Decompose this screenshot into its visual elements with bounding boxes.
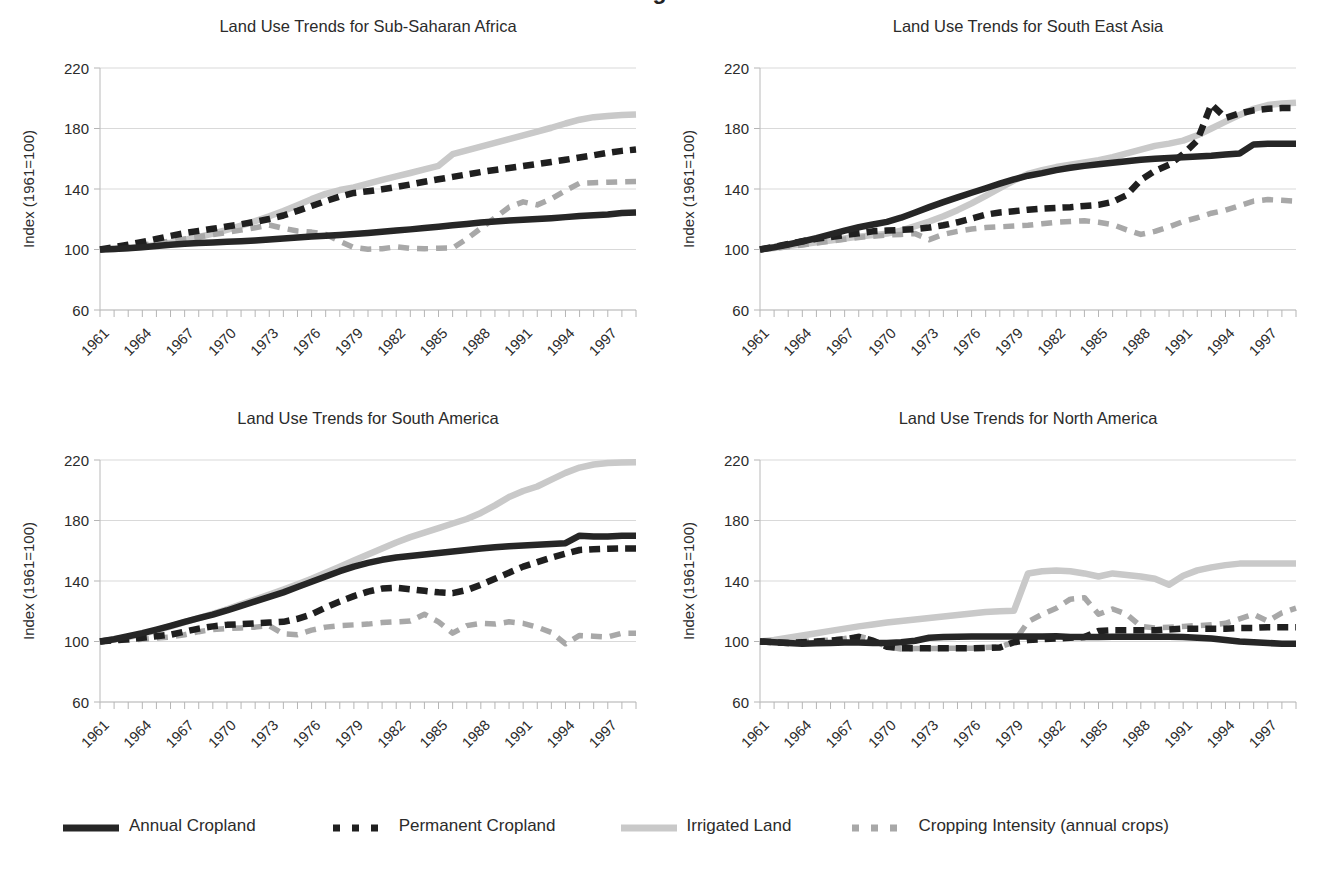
legend-swatch-glyph [620,822,678,834]
x-tick-label: 1973 [907,325,941,359]
chart-panel-sub-saharan-africa: Land Use Trends for Sub-Saharan AfricaIn… [0,0,660,392]
y-tick-label: 100 [724,633,749,650]
chart-svg: Land Use Trends for North AmericaIndex (… [660,392,1319,784]
x-tick-label: 1985 [417,717,451,751]
y-tick-label: 60 [72,302,89,319]
y-tick-label: 180 [64,120,89,137]
x-tick-label: 1970 [865,325,899,359]
y-tick-label: 60 [732,302,749,319]
x-tick-label: 1973 [247,717,281,751]
x-tick-label: 1994 [1203,717,1237,751]
y-axis-label: Index (1961=100) [680,130,697,248]
x-tick-label: 1997 [586,717,620,751]
y-tick-label: 220 [724,452,749,469]
x-tick-label: 1961 [78,325,112,359]
legend-label-permanent-cropland: Permanent Cropland [399,816,556,836]
x-tick-label: 1976 [290,325,324,359]
legend-item-annual-cropland: Annual Cropland [62,816,256,836]
x-tick-label: 1982 [1034,325,1068,359]
x-tick-label: 1991 [501,717,535,751]
x-tick-label: 1964 [120,717,154,751]
x-tick-label: 1970 [205,325,239,359]
chart-title: Land Use Trends for North America [899,409,1158,427]
x-tick-label: 1970 [205,717,239,751]
chart-panel-south-america: Land Use Trends for South AmericaIndex (… [0,392,660,790]
y-axis-label: Index (1961=100) [680,522,697,640]
x-tick-label: 1967 [163,717,197,751]
chart-panel-north-america: Land Use Trends for North AmericaIndex (… [660,392,1319,790]
legend-swatch-glyph [62,822,120,834]
chart-svg: Land Use Trends for South East AsiaIndex… [660,0,1319,392]
legend-swatch-cropping-intensity [851,820,909,832]
legend-item-permanent-cropland: Permanent Cropland [332,816,556,836]
x-tick-label: 1964 [780,325,814,359]
y-tick-label: 140 [724,181,749,198]
x-tick-label: 1967 [823,325,857,359]
x-tick-label: 1985 [1077,325,1111,359]
series-line-annual-cropland [760,144,1296,250]
legend-swatch-glyph [332,822,390,834]
x-tick-label: 1988 [459,717,493,751]
y-tick-label: 60 [732,694,749,711]
chart-panel-south-east-asia: Land Use Trends for South East AsiaIndex… [660,0,1319,392]
y-tick-label: 180 [724,120,749,137]
legend-item-irrigated-land: Irrigated Land [620,816,792,836]
chart-title: Land Use Trends for South East Asia [893,17,1164,35]
x-tick-label: 1997 [1246,325,1280,359]
legend-swatch-irrigated-land [620,820,678,832]
legend-swatch-annual-cropland [62,820,120,832]
x-tick-label: 1982 [374,325,408,359]
legend-row: Annual Cropland Permanent Cropland Irrig… [0,806,1319,846]
series-line-cropping-intensity [100,614,636,643]
x-tick-label: 1991 [501,325,535,359]
y-tick-label: 220 [724,60,749,77]
x-tick-label: 1973 [907,717,941,751]
y-tick-label: 100 [724,241,749,258]
x-tick-label: 1964 [120,325,154,359]
legend-label-annual-cropland: Annual Cropland [129,816,256,836]
x-tick-label: 1976 [950,325,984,359]
chart-title: Land Use Trends for Sub-Saharan Africa [219,17,517,35]
chart-svg: Land Use Trends for Sub-Saharan AfricaIn… [0,0,660,392]
x-tick-label: 1979 [332,325,366,359]
y-tick-label: 60 [72,694,89,711]
y-tick-label: 100 [64,633,89,650]
y-tick-label: 140 [64,181,89,198]
x-tick-label: 1979 [992,717,1026,751]
x-tick-label: 1997 [1246,717,1280,751]
series-line-irrigated-land [100,114,636,249]
chart-title: Land Use Trends for South America [237,409,499,427]
y-tick-label: 140 [64,573,89,590]
x-tick-label: 1982 [1034,717,1068,751]
series-line-irrigated-land [100,462,636,641]
legend-label-cropping-intensity: Cropping Intensity (annual crops) [918,816,1168,836]
x-tick-label: 1991 [1161,325,1195,359]
x-tick-label: 1985 [1077,717,1111,751]
chart-svg: Land Use Trends for South AmericaIndex (… [0,392,660,784]
y-axis-label: Index (1961=100) [20,522,37,640]
chart-panel-grid: Land Use Trends for Sub-Saharan AfricaIn… [0,0,1319,800]
x-tick-label: 1988 [459,325,493,359]
x-tick-label: 1985 [417,325,451,359]
x-tick-label: 1973 [247,325,281,359]
y-tick-label: 180 [724,512,749,529]
x-tick-label: 1994 [543,325,577,359]
figure-root: g Land Use Trends for Sub-Saharan Africa… [0,0,1319,875]
x-tick-label: 1991 [1161,717,1195,751]
x-tick-label: 1979 [992,325,1026,359]
x-tick-label: 1961 [738,717,772,751]
y-tick-label: 220 [64,452,89,469]
y-tick-label: 140 [724,573,749,590]
figure-legend: Annual Cropland Permanent Cropland Irrig… [0,806,1319,866]
x-tick-label: 1988 [1119,717,1153,751]
y-axis-label: Index (1961=100) [20,130,37,248]
x-tick-label: 1961 [78,717,112,751]
y-tick-label: 220 [64,60,89,77]
x-tick-label: 1994 [543,717,577,751]
x-tick-label: 1982 [374,717,408,751]
x-tick-label: 1964 [780,717,814,751]
x-tick-label: 1976 [290,717,324,751]
x-tick-label: 1979 [332,717,366,751]
legend-label-irrigated-land: Irrigated Land [687,816,792,836]
x-tick-label: 1976 [950,717,984,751]
